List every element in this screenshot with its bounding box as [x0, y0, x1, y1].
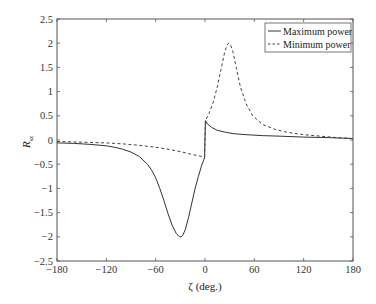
y-tick-label: −1.5: [34, 207, 53, 218]
series-line-minimum-power: [57, 43, 353, 157]
x-tick-label: 0: [202, 264, 207, 275]
y-tick-label: 1: [48, 86, 53, 97]
chart: 2.521.510.50−0.5−1−1.5−2−2.5 −180−120−60…: [0, 0, 376, 304]
y-tick-label: −0.5: [34, 159, 53, 170]
legend-label-maximum-power: Maximum power: [283, 26, 353, 37]
svg-text:Rsz: Rsz: [20, 136, 35, 149]
y-tick-label: −1: [42, 183, 53, 194]
x-tick-label: 60: [249, 264, 260, 275]
y-axis-label-sub: sz: [27, 136, 35, 142]
y-tick-label: 0.5: [40, 110, 53, 121]
y-tick-label: −2: [42, 231, 53, 242]
x-tick-label: −120: [95, 264, 117, 275]
x-axis-label: ζ (deg.): [188, 280, 222, 293]
x-tick-label: −180: [46, 264, 68, 275]
x-ticks: −180−120−60060120180: [46, 19, 361, 275]
series-group: [57, 43, 353, 237]
x-tick-label: 120: [296, 264, 312, 275]
x-tick-label: −60: [147, 264, 163, 275]
y-tick-label: 2: [48, 38, 53, 49]
legend: Maximum power Minimum power: [265, 23, 353, 52]
y-tick-label: 1.5: [40, 62, 53, 73]
y-tick-label: 2.5: [40, 14, 53, 25]
legend-label-minimum-power: Minimum power: [283, 39, 351, 50]
y-tick-label: 0: [48, 135, 53, 146]
y-axis-label: Rsz: [20, 136, 35, 149]
x-tick-label: 180: [345, 264, 361, 275]
